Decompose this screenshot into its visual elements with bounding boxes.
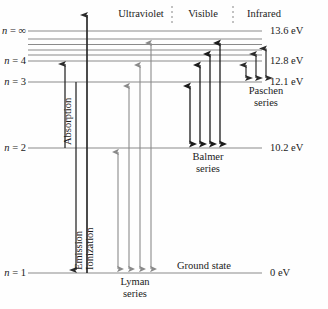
level-label-n-1-n: n	[4, 267, 9, 278]
balmer-series-label-line1: Balmer	[178, 151, 238, 163]
level-label-n-4-eq: = 4	[12, 55, 26, 66]
band-label-infrared: Infrared	[235, 8, 293, 19]
level-label-n-3-eq: = 3	[12, 76, 26, 87]
level-label-n-1-eq: = 1	[12, 267, 26, 278]
energy-label-10-2: 10.2 eV	[270, 142, 303, 153]
energy-label-0: 0 eV	[270, 267, 290, 278]
level-label-n-infinity-n: n	[2, 25, 7, 36]
level-label-n-2-n: n	[4, 142, 9, 153]
absorption-label: Absorption	[62, 98, 73, 145]
lyman-series-label-line2: series	[105, 288, 165, 300]
level-label-n-3-n: n	[4, 76, 9, 87]
lyman-series-label: Lyman series	[105, 276, 165, 300]
band-label-ultraviolet: Ultraviolet	[101, 8, 181, 19]
balmer-series-label-line2: series	[178, 163, 238, 175]
paschen-series-label: Paschen series	[234, 85, 298, 109]
balmer-series-label: Balmer series	[178, 151, 238, 175]
lyman-series-arrows	[118, 43, 151, 269]
level-label-n-4-n: n	[4, 55, 9, 66]
energy-level-diagram: n = ∞ n = 4 n = 3 n = 2 n = 1 13.6 eV 12…	[0, 0, 328, 309]
paschen-series-label-line2: series	[234, 97, 298, 109]
ionization-label: Ionization	[84, 227, 95, 270]
lyman-series-label-line1: Lyman	[105, 276, 165, 288]
diagram-canvas	[0, 0, 328, 309]
emission-label: Emission	[73, 231, 84, 270]
paschen-series-label-line1: Paschen	[234, 85, 298, 97]
level-label-n-infinity-eq: = ∞	[10, 25, 26, 36]
energy-label-13-6: 13.6 eV	[270, 25, 303, 36]
ground-state-label: Ground state	[177, 260, 231, 271]
paschen-series-arrows	[246, 49, 266, 79]
band-label-visible: Visible	[175, 8, 231, 19]
balmer-series-arrows	[190, 43, 220, 144]
energy-label-12-8: 12.8 eV	[270, 55, 303, 66]
level-label-n-2-eq: = 2	[12, 142, 26, 153]
